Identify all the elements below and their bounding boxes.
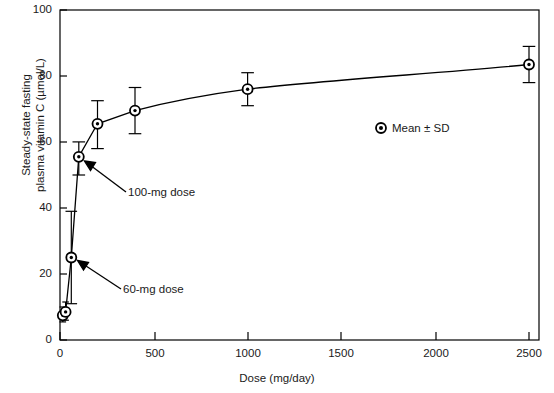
chart-figure: 100 80 60 40 20 0 0 500 1000 1500 2000 2…: [0, 0, 554, 393]
data-point-marker: [130, 106, 140, 116]
data-point-marker: [61, 307, 71, 317]
data-point-marker: [66, 253, 76, 263]
y-axis-label-line2: plasma vitamin C (µmol/L): [34, 30, 48, 220]
error-bars: [60, 46, 536, 322]
data-point-marker: [524, 60, 534, 70]
x-axis-label: Dose (mg/day): [0, 372, 554, 384]
y-tick-label-0: 0: [28, 334, 52, 346]
x-tick-label-1500: 1500: [321, 348, 361, 360]
data-point-marker: [74, 152, 84, 162]
data-point-marker: [243, 84, 253, 94]
x-tick-label-2000: 2000: [416, 348, 456, 360]
annotation-arrows: [78, 161, 127, 289]
x-tick-label-1000: 1000: [228, 348, 268, 360]
annotation-arrow-60mg: [78, 261, 122, 290]
plot-canvas: [0, 0, 554, 393]
annotation-label-100mg: 100-mg dose: [128, 186, 195, 198]
y-axis-label-line1: Steady-state fasting: [20, 30, 34, 220]
y-axis-ticks: [60, 10, 67, 340]
x-tick-label-500: 500: [135, 348, 175, 360]
y-axis-label: Steady-state fasting plasma vitamin C (µ…: [20, 30, 54, 220]
data-point-marker: [93, 119, 103, 129]
annotation-label-60mg: 60-mg dose: [123, 283, 184, 295]
x-tick-label-2500: 2500: [509, 348, 549, 360]
x-axis-ticks: [60, 332, 529, 340]
y-tick-label-20: 20: [28, 268, 52, 280]
annotation-arrow-100mg: [85, 161, 127, 192]
legend-marker: [376, 123, 386, 133]
x-tick-label-0: 0: [40, 348, 80, 360]
legend-label-mean-sd: Mean ± SD: [392, 122, 449, 134]
y-tick-label-100: 100: [28, 4, 52, 16]
